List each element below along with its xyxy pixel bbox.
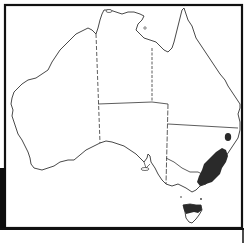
bass-strait-islet [180,196,182,198]
distribution-range-north [225,133,231,141]
kangaroo-island [141,168,149,171]
island-north [106,10,112,13]
bass-strait-islet [200,198,202,200]
distribution-map [0,0,244,243]
left-shadow-bar [0,168,6,230]
gulf-island [144,27,146,29]
